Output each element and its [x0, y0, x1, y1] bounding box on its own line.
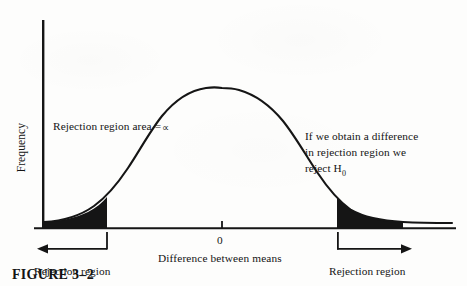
left-rejection-region-fill [44, 197, 107, 228]
right-rejection-region-indicator [337, 232, 412, 253]
reject-note-line-3: reject H0 [305, 160, 418, 179]
right-rejection-region-fill [337, 197, 403, 228]
reject-null-hypothesis-annotation: If we obtain a difference in rejection r… [305, 128, 418, 179]
reject-note-line-3-text: reject H [305, 162, 342, 174]
y-axis-label: Frequency [14, 106, 29, 190]
reject-note-line-2: in rejection region we [305, 144, 418, 160]
zero-tick-label: 0 [217, 233, 223, 248]
left-rejection-region-indicator [37, 232, 107, 253]
rejection-area-alpha-annotation: Rejection region area =∝ [53, 119, 169, 134]
rejection-region-right-label: Rejection region [329, 264, 406, 279]
rejection-area-alpha-text: Rejection region area = [53, 120, 161, 132]
x-axis-label: Difference between means [158, 251, 282, 266]
figure-caption: FIGURE 3–2 [12, 266, 94, 284]
null-hypothesis-subscript: 0 [342, 169, 346, 178]
reject-note-line-1: If we obtain a difference [305, 128, 418, 144]
alpha-symbol: ∝ [161, 122, 169, 133]
figure-page: Frequency Rejection region area =∝ If we… [0, 0, 467, 286]
